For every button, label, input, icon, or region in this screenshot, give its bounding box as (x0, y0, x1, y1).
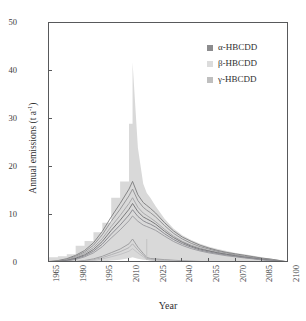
y-tick-label: 10 (0, 210, 17, 219)
x-tick-label: 1965 (52, 265, 61, 282)
x-tick-label: 2070 (239, 265, 248, 282)
x-tick-mark (208, 258, 209, 262)
y-tick-mark (48, 214, 52, 215)
x-tick-label: 2040 (185, 265, 194, 282)
y-tick-label: 20 (0, 162, 17, 171)
x-tick-label: 2025 (159, 265, 168, 282)
y-tick-mark (48, 118, 52, 119)
legend-item: γ-HBCDD (207, 75, 257, 84)
legend-label: β-HBCDD (218, 59, 257, 68)
x-tick-mark (101, 258, 102, 262)
y-axis-title-suffix: ) (28, 102, 38, 105)
y-tick-label: 40 (0, 66, 17, 75)
y-tick-label: 0 (0, 258, 17, 267)
legend-swatch-icon (207, 61, 213, 67)
x-tick-mark (235, 258, 236, 262)
legend: α-HBCDDβ-HBCDDγ-HBCDD (207, 43, 257, 84)
x-tick-label: 2100 (292, 265, 301, 282)
x-tick-mark (181, 258, 182, 262)
y-tick-label: 30 (0, 114, 17, 123)
x-tick-mark (75, 258, 76, 262)
x-tick-mark (128, 258, 129, 262)
legend-label: γ-HBCDD (218, 75, 256, 84)
y-tick-mark (48, 166, 52, 167)
x-tick-label: 2010 (132, 265, 141, 282)
x-tick-mark (261, 258, 262, 262)
x-tick-mark (155, 258, 156, 262)
legend-item: β-HBCDD (207, 59, 257, 68)
legend-swatch-icon (207, 77, 213, 83)
y-axis-title-text: Annual emissions (t a (28, 111, 38, 194)
legend-swatch-icon (207, 45, 213, 51)
legend-item: α-HBCDD (207, 43, 257, 52)
x-tick-label: 1980 (79, 265, 88, 282)
y-tick-label: 50 (0, 18, 17, 27)
x-axis-title: Year (48, 300, 288, 311)
x-tick-label: 1995 (105, 265, 114, 282)
x-tick-label: 2085 (265, 265, 274, 282)
x-tick-label: 2055 (212, 265, 221, 282)
y-axis-title: Annual emissions (t a-1) (26, 53, 38, 243)
legend-label: α-HBCDD (218, 43, 257, 52)
y-tick-mark (48, 70, 52, 71)
y-axis-title-exponent: -1 (26, 106, 33, 111)
figure: 01020304050 1965198019952010202520402055… (0, 0, 306, 321)
